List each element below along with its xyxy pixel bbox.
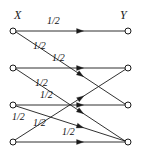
arrowhead-e6 [77, 96, 84, 102]
node-y4[interactable] [125, 139, 131, 145]
arrowhead-e3 [77, 66, 84, 71]
node-x2[interactable] [10, 65, 16, 71]
node-y3[interactable] [125, 102, 131, 108]
edge-weight-label-e1: 1/2 [47, 16, 60, 26]
arrowhead-e7 [77, 140, 84, 145]
edge-weight-label-e6: 1/2 [12, 112, 25, 122]
edge-weight-label-e4: 1/2 [35, 78, 48, 88]
edge-weight-label-e7: 1/2 [62, 127, 75, 137]
node-y1[interactable] [125, 28, 131, 34]
arrowhead-e5 [77, 103, 84, 108]
arrowhead-e8 [76, 123, 83, 128]
right-set-label: Y [120, 9, 127, 21]
diagram-canvas: X Y 1/21/21/21/21/21/21/21/2 [0, 0, 141, 161]
arrowhead-e4 [76, 108, 83, 114]
left-set-label: X [14, 9, 21, 21]
edge-weight-label-e3: 1/2 [52, 53, 65, 63]
node-y2[interactable] [125, 65, 131, 71]
node-x3[interactable] [10, 102, 16, 108]
edge-weight-label-e5: 1/2 [40, 90, 53, 100]
arrowhead-e1 [77, 29, 84, 34]
edge-weight-label-e8: 1/2 [33, 118, 46, 128]
arrowhead-e2 [76, 71, 83, 77]
node-x4[interactable] [10, 139, 16, 145]
node-x1[interactable] [10, 28, 16, 34]
edge-weight-label-e2: 1/2 [33, 41, 46, 51]
arrowheads-group [76, 29, 84, 145]
